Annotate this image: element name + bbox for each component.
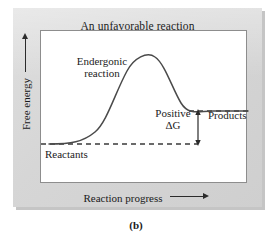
chart-title: An unfavorable reaction xyxy=(13,20,262,32)
endergonic-line-1: Endergonic xyxy=(77,55,128,67)
delta-g-line-1: Positive xyxy=(155,107,190,119)
endergonic-reaction-label: Endergonic reaction xyxy=(59,55,145,80)
x-axis: Reaction progress xyxy=(40,189,247,207)
plot-area: Endergonic reaction Reactants Products P… xyxy=(40,30,247,183)
reactants-label: Reactants xyxy=(45,148,88,160)
products-label: Products xyxy=(208,109,247,121)
delta-g-line-2: ΔG xyxy=(165,119,180,131)
endergonic-line-2: reaction xyxy=(84,67,119,79)
figure-panel: An unfavorable reaction Free energy Ende… xyxy=(13,8,262,207)
y-axis: Free energy xyxy=(14,38,40,178)
y-axis-label: Free energy xyxy=(20,54,32,154)
figure-caption: (b) xyxy=(0,219,272,231)
x-axis-label: Reaction progress xyxy=(83,192,162,204)
delta-g-label: Positive ΔG xyxy=(145,107,201,132)
right-arrow-icon xyxy=(170,196,204,197)
